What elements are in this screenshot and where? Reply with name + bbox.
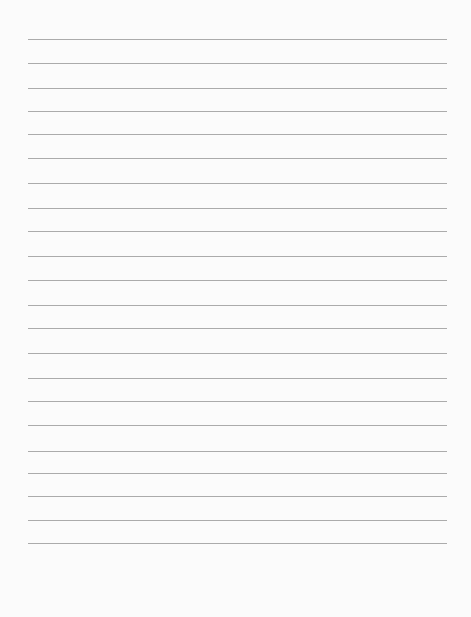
ruled-line bbox=[28, 520, 447, 521]
ruled-line bbox=[28, 183, 447, 184]
ruled-line bbox=[28, 63, 447, 64]
ruled-line bbox=[28, 256, 447, 257]
ruled-line bbox=[28, 208, 447, 209]
ruled-line bbox=[28, 134, 447, 135]
ruled-line bbox=[28, 305, 447, 306]
ruled-line bbox=[28, 88, 447, 89]
ruled-line bbox=[28, 111, 447, 112]
ruled-line bbox=[28, 425, 447, 426]
ruled-line bbox=[28, 496, 447, 497]
ruled-line bbox=[28, 543, 447, 544]
ruled-line bbox=[28, 353, 447, 354]
ruled-line bbox=[28, 158, 447, 159]
ruled-line bbox=[28, 39, 447, 40]
ruled-line bbox=[28, 451, 447, 452]
ruled-line bbox=[28, 280, 447, 281]
ruled-line bbox=[28, 328, 447, 329]
ruled-line bbox=[28, 231, 447, 232]
ruled-line bbox=[28, 401, 447, 402]
lined-paper-sheet bbox=[0, 0, 471, 617]
ruled-line bbox=[28, 378, 447, 379]
ruled-line bbox=[28, 473, 447, 474]
